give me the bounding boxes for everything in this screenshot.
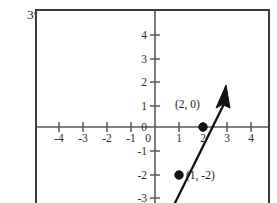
x-tick-label-neg4: -4 <box>54 132 64 144</box>
y-tick-label-0: 0 <box>141 121 147 133</box>
line-arrowhead <box>216 85 230 108</box>
point-annotation-1-neg2: (1, -2) <box>186 169 215 181</box>
x-tick-label-neg1: -1 <box>126 132 136 144</box>
y-tick-label-neg2: -2 <box>137 169 147 181</box>
x-tick-label-3: 3 <box>224 132 230 144</box>
y-tick-label-neg3: -3 <box>137 192 147 203</box>
y-tick-label-1: 1 <box>141 100 147 112</box>
plotted-line <box>171 106 223 203</box>
figure-root: 39. <box>0 0 277 203</box>
x-tick-label-4: 4 <box>248 132 254 144</box>
y-tick-label-3: 3 <box>141 53 147 65</box>
y-tick-label-2: 2 <box>141 76 147 88</box>
x-tick-label-2: 2 <box>200 132 206 144</box>
data-point-1-neg2 <box>175 171 183 179</box>
x-tick-label-1: 1 <box>176 132 182 144</box>
data-point-2-0 <box>199 123 207 131</box>
x-tick-label-neg3: -3 <box>78 132 88 144</box>
coordinate-graph <box>37 11 268 203</box>
point-annotation-2-0: (2, 0) <box>175 98 200 110</box>
plot-frame: -4 -3 -2 -1 0 1 2 3 4 4 3 2 1 0 -1 -2 -3… <box>35 9 270 203</box>
y-tick-label-neg1: -1 <box>137 145 147 157</box>
y-tick-label-4: 4 <box>141 29 147 41</box>
x-tick-label-0: 0 <box>145 132 151 144</box>
x-tick-label-neg2: -2 <box>102 132 112 144</box>
